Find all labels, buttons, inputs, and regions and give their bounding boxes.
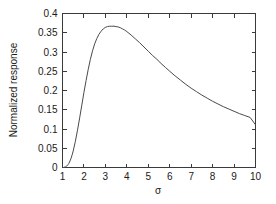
x-tick-label-6: 6	[167, 171, 173, 182]
y-tick-label-0.2: 0.2	[44, 85, 58, 96]
y-tick-label-0.4: 0.4	[44, 8, 58, 19]
y-tick-label-0.15: 0.15	[38, 104, 58, 115]
y-tick-label-0.3: 0.3	[44, 47, 58, 58]
y-tick-label-0.35: 0.35	[38, 27, 58, 38]
x-axis-title: σ	[155, 185, 162, 196]
x-tick-label-8: 8	[210, 171, 216, 182]
y-axis-title: Normalized response	[8, 42, 19, 137]
x-tick-label-9: 9	[231, 171, 237, 182]
x-tick-label-7: 7	[188, 171, 194, 182]
y-tick-label-0: 0	[52, 162, 58, 173]
x-tick-label-3: 3	[103, 171, 109, 182]
x-tick-label-10: 10	[250, 171, 262, 182]
y-tick-label-0.25: 0.25	[38, 66, 58, 77]
chart-figure: 12345678910 00.050.10.150.20.250.30.350.…	[0, 0, 276, 204]
y-tick-label-0.05: 0.05	[38, 143, 58, 154]
x-tick-label-1: 1	[60, 171, 66, 182]
normalized-response-plot: 12345678910 00.050.10.150.20.250.30.350.…	[0, 0, 276, 204]
x-tick-label-5: 5	[145, 171, 151, 182]
x-tick-label-2: 2	[81, 171, 87, 182]
x-tick-label-4: 4	[124, 171, 130, 182]
y-tick-label-0.1: 0.1	[44, 124, 58, 135]
